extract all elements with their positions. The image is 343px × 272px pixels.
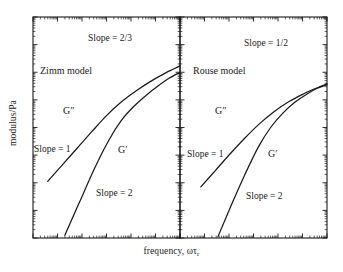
rouse-slope-high-frequency: Slope = 1/2 bbox=[244, 38, 288, 48]
plot-canvas: Zimm modelSlope = 2/3Slope = 1Slope = 2G… bbox=[0, 0, 343, 272]
rouse-curve-label-gpp: G″ bbox=[215, 105, 226, 116]
plot-annotations: Zimm modelSlope = 2/3Slope = 1Slope = 2G… bbox=[34, 33, 288, 201]
x-axis-label-subscript: r bbox=[197, 250, 199, 258]
rouse-slope-terminal-gpp: Slope = 1 bbox=[187, 149, 224, 159]
panel-title-rouse: Rouse model bbox=[193, 65, 246, 76]
zimm-slope-terminal-gpp: Slope = 1 bbox=[34, 144, 71, 154]
figure-container: Zimm modelSlope = 2/3Slope = 1Slope = 2G… bbox=[0, 0, 343, 272]
rouse-curve-label-gp: G′ bbox=[268, 148, 277, 159]
zimm-curve-label-gp: G′ bbox=[118, 144, 127, 155]
x-axis-label-text: frequency, ωτ bbox=[144, 246, 197, 256]
y-axis-label: modulus/Pa bbox=[8, 78, 18, 168]
y-axis-label-text: modulus/Pa bbox=[8, 100, 18, 146]
zimm-slope-high-frequency: Slope = 2/3 bbox=[88, 33, 132, 43]
zimm-curve-label-gpp: G″ bbox=[63, 105, 74, 116]
panel-title-zimm: Zimm model bbox=[40, 65, 92, 76]
rouse-slope-terminal-gp: Slope = 2 bbox=[246, 191, 283, 201]
x-axis-label: frequency, ωτr bbox=[0, 246, 343, 258]
zimm-slope-terminal-gp: Slope = 2 bbox=[96, 188, 133, 198]
